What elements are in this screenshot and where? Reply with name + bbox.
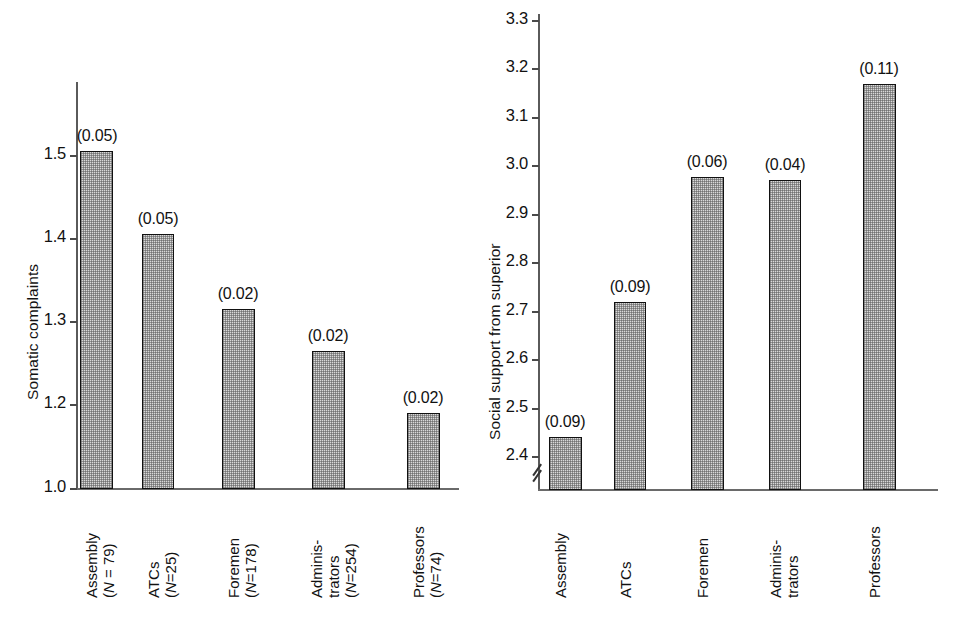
cat-line-2: (N = 79) (100, 533, 117, 598)
y-tick-left-0 (70, 155, 77, 157)
bar-right-foremen[interactable] (691, 177, 724, 490)
chart-panel-social-support: Social support from superior 3.3 3.2 3.1… (470, 0, 953, 619)
cat-line-2: (N=25) (162, 552, 179, 598)
x-category-label-right-professors: Professors (866, 526, 883, 598)
cat-line-2: (N=74) (427, 526, 444, 598)
y-ticklabel-right-2: 3.1 (476, 106, 528, 125)
y-ticklabel-right-8: 2.5 (476, 397, 528, 416)
y-tick-left-1 (70, 238, 77, 240)
cat-line-1: Professors (410, 526, 427, 598)
y-tick-right-7 (532, 359, 539, 361)
y-ticklabel-right-5: 2.8 (476, 251, 528, 270)
x-category-label-left-professors: Professors (N=74) (410, 526, 444, 598)
y-ticklabel-right-1: 3.2 (476, 57, 528, 76)
y-tick-right-1 (532, 68, 539, 70)
x-category-label-left-administrators: Adminis- trators (N=254) (308, 540, 359, 598)
error-label-right-foremen: (0.06) (666, 153, 748, 171)
y-axis-label-left: Somatic complaints (24, 264, 42, 400)
bar-right-assembly[interactable] (549, 437, 582, 490)
chart-panel-somatic-complaints: Somatic complaints 1.5 1.4 1.3 1.2 1.0 (… (0, 0, 470, 619)
y-tick-right-9 (532, 456, 539, 458)
cat-line-1: ATCs (145, 552, 162, 598)
bar-left-professors[interactable] (407, 413, 440, 489)
y-tick-right-0 (532, 20, 539, 22)
cat-line-2: trators (325, 540, 342, 598)
x-axis-line-left (76, 488, 459, 490)
cat-line-1: Foremen (694, 538, 711, 598)
y-ticklabel-left-3: 1.2 (18, 393, 66, 412)
error-label-left-administrators: (0.02) (287, 327, 369, 345)
cat-line-1: Assembly (552, 533, 569, 598)
bar-right-atcs[interactable] (614, 302, 646, 490)
y-tick-left-2 (70, 321, 77, 323)
bar-left-administrators[interactable] (312, 351, 345, 489)
y-tick-right-2 (532, 117, 539, 119)
cat-line-2: (N=178) (242, 538, 259, 598)
y-ticklabel-right-4: 2.9 (476, 203, 528, 222)
bar-left-foremen[interactable] (222, 309, 255, 489)
bar-left-assembly[interactable] (80, 151, 113, 489)
y-ticklabel-left-1: 1.4 (18, 227, 66, 246)
y-tick-right-8 (532, 408, 539, 410)
cat-line-1: ATCs (617, 562, 634, 598)
y-ticklabel-right-6: 2.7 (476, 300, 528, 319)
y-tick-right-3 (532, 165, 539, 167)
x-category-label-right-foremen: Foremen (694, 538, 711, 598)
y-tick-right-4 (532, 214, 539, 216)
cat-line-1: Professors (866, 526, 883, 598)
bar-right-administrators[interactable] (769, 180, 801, 490)
y-ticklabel-right-7: 2.6 (476, 348, 528, 367)
bar-right-professors[interactable] (863, 84, 896, 490)
error-label-right-assembly: (0.09) (524, 413, 606, 431)
cat-line-1: Adminis- (308, 540, 325, 598)
error-label-left-assembly: (0.05) (56, 127, 138, 145)
y-ticklabel-left-2: 1.3 (18, 310, 66, 329)
cat-line-1: Foremen (225, 538, 242, 598)
error-label-right-atcs: (0.09) (589, 278, 671, 296)
y-ticklabel-right-3: 3.0 (476, 154, 528, 173)
error-label-right-administrators: (0.04) (744, 156, 826, 174)
cat-line-2: trators (784, 540, 801, 598)
x-category-label-right-administrators: Adminis- trators (767, 540, 801, 598)
y-tick-right-5 (532, 262, 539, 264)
x-category-label-left-atcs: ATCs (N=25) (145, 552, 179, 598)
axis-break-icon (530, 463, 550, 483)
cat-line-3: (N=254) (342, 540, 359, 598)
error-label-left-foremen: (0.02) (197, 285, 279, 303)
x-category-label-left-foremen: Foremen (N=178) (225, 538, 259, 598)
error-label-left-professors: (0.02) (382, 389, 464, 407)
y-ticklabel-right-9: 2.4 (476, 445, 528, 464)
x-category-label-right-assembly: Assembly (552, 533, 569, 598)
figure-container: Somatic complaints 1.5 1.4 1.3 1.2 1.0 (… (0, 0, 953, 619)
y-tick-right-6 (532, 311, 539, 313)
error-label-left-atcs: (0.05) (117, 210, 199, 228)
y-tick-left-3 (70, 404, 77, 406)
x-category-label-left-assembly: Assembly (N = 79) (83, 533, 117, 598)
y-ticklabel-left-0: 1.5 (18, 144, 66, 163)
y-ticklabel-right-0: 3.3 (476, 9, 528, 28)
cat-line-1: Assembly (83, 533, 100, 598)
y-ticklabel-left-4: 1.0 (18, 477, 66, 496)
error-label-right-professors: (0.11) (838, 60, 920, 78)
x-category-label-right-atcs: ATCs (617, 562, 634, 598)
bar-left-atcs[interactable] (142, 234, 174, 489)
y-tick-left-4 (70, 488, 77, 490)
cat-line-1: Adminis- (767, 540, 784, 598)
